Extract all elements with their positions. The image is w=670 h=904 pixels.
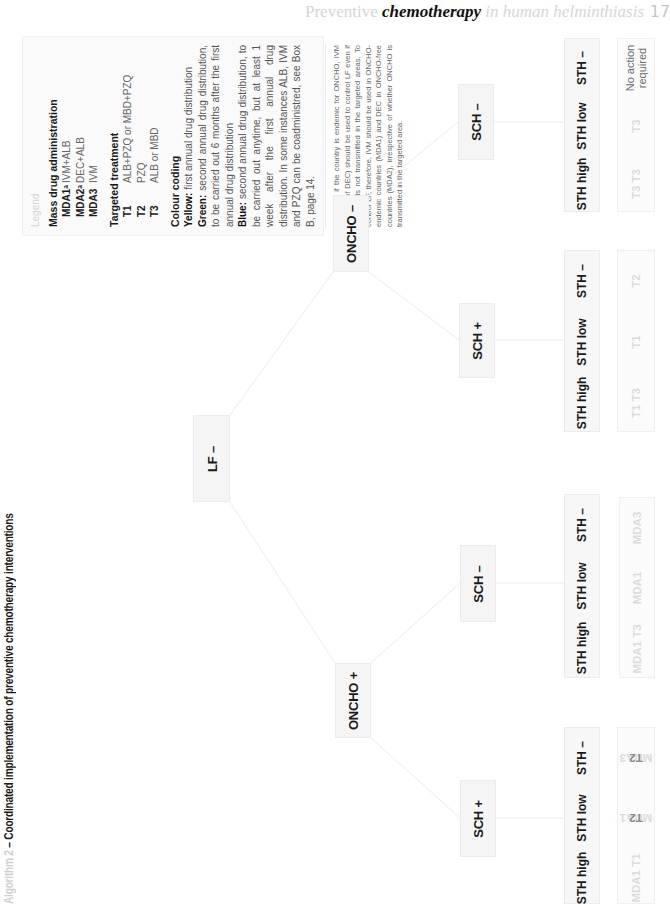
sth-label: STH – <box>575 508 589 542</box>
legend-mda-item: MDA2ᵃDEC+ALB <box>74 45 88 227</box>
figure-title: Algorithm 2 – Coordinated implementation… <box>1 294 15 904</box>
running-header-emphasis: chemotherapy <box>382 2 481 21</box>
title-text: – Coordinated implementation of preventi… <box>1 513 16 850</box>
node-sch: SCH – <box>460 545 496 622</box>
running-header-part1: Preventive <box>305 2 382 21</box>
node-lf-minus: LF – <box>193 415 230 502</box>
node-sch: SCH – <box>458 84 494 160</box>
treatment-label: T1 <box>630 335 642 348</box>
sth-label: STH low <box>575 318 589 365</box>
sth-label: STH high <box>575 377 589 430</box>
sth-label: STH – <box>575 51 589 85</box>
sth-row: STH high STH low STH – <box>564 494 600 678</box>
sth-row: STH high STH low STH – <box>564 38 600 212</box>
node-oncho-minus: ONCHO – <box>333 195 369 272</box>
treatment-row: T1 T3 T1 T2 <box>617 250 655 432</box>
legend-targeted-title: Targeted treatment <box>108 45 122 227</box>
treatment-label: T3 <box>630 119 642 132</box>
treatment-row: MDA1 T3 MDA1 MDA3 <box>619 497 655 678</box>
legend-targeted-item: T2PZQ <box>135 45 149 227</box>
legend-colour-yellow: Yellow: first annual drug distribution <box>182 45 196 227</box>
node-oncho-plus: ONCHO + <box>335 663 371 738</box>
legend-colour-title: Colour coding <box>169 45 183 227</box>
treatment-label: MDA1 T1 <box>630 853 642 902</box>
legend-mda-item: MDA3IVM <box>87 45 101 227</box>
treatment-row: MDA1 T1 MDA1 T2 MDA3 T2 <box>617 727 655 904</box>
treatment-label: T1 T3 <box>630 388 642 418</box>
sth-label: STH high <box>575 622 589 675</box>
legend-heading: Legend <box>29 45 43 227</box>
treatment-label: T3 T3 <box>630 169 642 199</box>
legend-mda-item: MDA1ᵃIVM+ALB <box>60 45 74 227</box>
sth-label: STH – <box>575 264 589 298</box>
treatment-label: MDA3 <box>631 512 643 545</box>
title-prefix: Algorithm 2 <box>1 850 16 904</box>
legend-colour-green: Green: second annual drug distribution, … <box>196 45 237 227</box>
sth-label: STH low <box>575 794 589 841</box>
sth-label: STH low <box>575 102 589 149</box>
running-header-part3: in human helminthiasis <box>481 2 644 21</box>
sth-label: STH low <box>575 562 589 609</box>
legend-colour-blue: Blue: second annual drug distribution, t… <box>236 45 317 227</box>
sth-label: STH high <box>575 852 589 904</box>
legend-targeted-item: T1ALB+PZQ or MBD+PZQ <box>121 45 135 227</box>
legend-mda-title: Mass drug administration <box>47 45 61 227</box>
no-action-label: No action required <box>624 38 648 98</box>
sth-row: STH high STH low STH – <box>564 250 600 432</box>
treatment-label: MDA1 <box>631 572 643 605</box>
treatment-row: T3 T3 T3 No action required <box>617 38 655 212</box>
page-number: 17 <box>650 2 670 21</box>
sth-label: STH – <box>575 741 589 775</box>
node-sch: SCH + <box>459 303 495 378</box>
running-header: Preventive chemotherapy in human helmint… <box>305 2 664 26</box>
legend-targeted-item: T3ALB or MBD <box>148 45 162 227</box>
legend-box: Legend Mass drug administration MDA1ᵃIVM… <box>22 36 324 236</box>
treatment-label: MDA1 T3 <box>631 624 643 673</box>
sth-row: STH high STH low STH – <box>564 727 600 904</box>
treatment-label: T2 <box>630 274 642 287</box>
node-sch: SCH + <box>460 780 496 857</box>
sth-label: STH high <box>575 158 589 211</box>
